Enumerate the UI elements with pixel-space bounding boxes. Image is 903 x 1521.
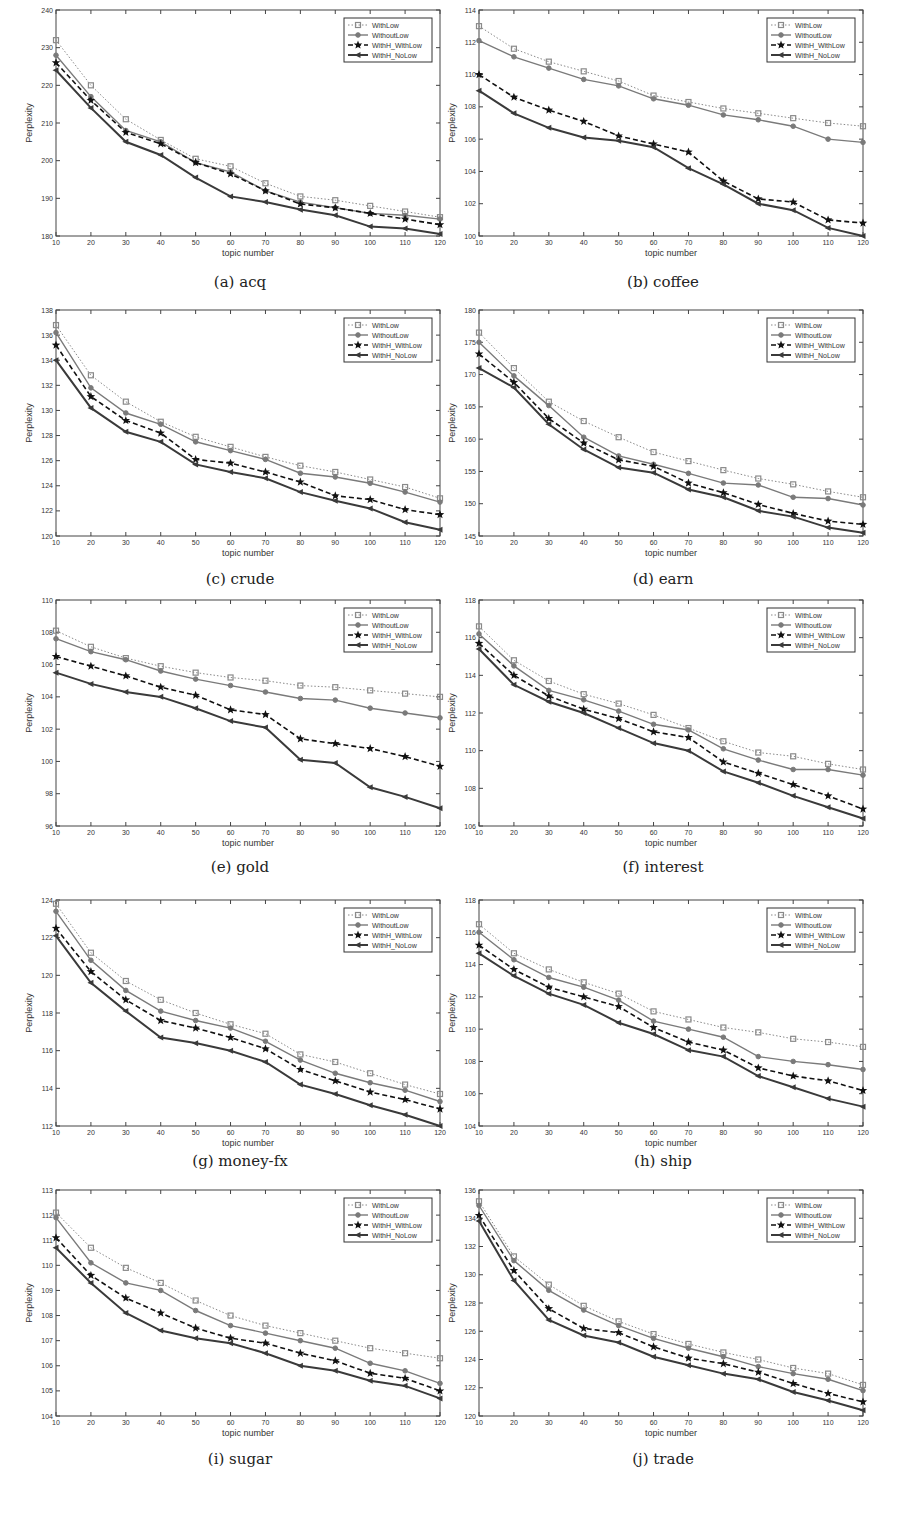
svg-text:30: 30 [545,1419,553,1426]
svg-text:60: 60 [227,1419,235,1426]
svg-text:100: 100 [787,539,799,546]
svg-text:110: 110 [42,1262,53,1269]
svg-text:WithH_NoLow: WithH_NoLow [372,942,418,950]
svg-text:70: 70 [262,829,270,836]
svg-text:WithH_WithLow: WithH_WithLow [795,42,846,50]
svg-text:107: 107 [41,1337,53,1344]
svg-text:145: 145 [464,533,476,540]
svg-text:WithoutLow: WithoutLow [372,922,410,929]
svg-text:WithLow: WithLow [795,612,823,619]
svg-text:Perplexity: Perplexity [447,1283,457,1323]
svg-text:Perplexity: Perplexity [447,693,457,733]
svg-text:10: 10 [52,829,60,836]
svg-text:126: 126 [464,1328,476,1335]
svg-text:124: 124 [464,1356,476,1363]
chart-panel-money-fx: 1020304050607080901001101201121141161181… [20,890,460,1180]
svg-text:110: 110 [823,829,834,836]
svg-text:WithH_WithLow: WithH_WithLow [372,632,423,640]
svg-text:100: 100 [364,829,376,836]
svg-text:108: 108 [464,1058,476,1065]
svg-text:116: 116 [465,929,476,936]
svg-text:WithoutLow: WithoutLow [795,32,833,39]
svg-text:165: 165 [464,403,476,410]
line-chart: 1020304050607080901001101201201221241261… [443,1180,883,1440]
line-chart: 1020304050607080901001101201201221241261… [20,300,460,560]
svg-text:WithH_NoLow: WithH_NoLow [795,52,841,60]
svg-text:112: 112 [42,1123,53,1130]
svg-text:108: 108 [464,785,476,792]
svg-text:100: 100 [464,233,476,240]
svg-text:WithH_WithLow: WithH_WithLow [372,342,423,350]
svg-text:105: 105 [41,1387,53,1394]
svg-text:102: 102 [464,200,476,207]
svg-text:topic number: topic number [645,838,697,848]
svg-text:20: 20 [87,1419,95,1426]
svg-text:114: 114 [465,7,476,14]
svg-text:180: 180 [41,233,53,240]
svg-text:40: 40 [157,239,165,246]
svg-text:80: 80 [296,829,304,836]
svg-text:104: 104 [464,1123,476,1130]
svg-text:108: 108 [41,1312,53,1319]
caption-sugar: (i) sugar [20,1450,460,1468]
caption-coffee: (b) coffee [443,273,883,291]
caption-trade: (j) trade [443,1450,883,1468]
svg-text:40: 40 [157,1129,165,1136]
svg-text:WithH_WithLow: WithH_WithLow [795,932,846,940]
svg-text:128: 128 [464,1300,476,1307]
svg-text:WithH_NoLow: WithH_NoLow [795,942,841,950]
svg-text:90: 90 [754,829,762,836]
svg-text:210: 210 [41,120,53,127]
svg-text:20: 20 [87,829,95,836]
svg-text:50: 50 [192,239,200,246]
svg-text:50: 50 [615,539,623,546]
svg-text:WithLow: WithLow [795,322,823,329]
svg-text:120: 120 [41,972,53,979]
svg-text:60: 60 [227,829,235,836]
svg-text:134: 134 [41,357,53,364]
svg-text:175: 175 [464,339,476,346]
svg-text:WithH_WithLow: WithH_WithLow [795,342,846,350]
svg-text:60: 60 [227,1129,235,1136]
svg-text:106: 106 [464,823,476,830]
svg-text:124: 124 [41,482,53,489]
svg-text:WithLow: WithLow [372,912,400,919]
svg-text:120: 120 [857,1419,869,1426]
svg-text:10: 10 [52,239,60,246]
svg-text:102: 102 [41,726,53,733]
svg-text:40: 40 [580,539,588,546]
svg-text:40: 40 [580,1129,588,1136]
svg-text:WithH_WithLow: WithH_WithLow [372,932,423,940]
svg-text:WithLow: WithLow [372,612,400,619]
svg-text:40: 40 [157,829,165,836]
caption-ship: (h) ship [443,1152,883,1170]
svg-text:109: 109 [41,1287,53,1294]
svg-text:WithH_WithLow: WithH_WithLow [795,632,846,640]
svg-text:136: 136 [41,332,53,339]
svg-text:20: 20 [510,239,518,246]
svg-text:138: 138 [41,307,53,314]
svg-text:topic number: topic number [222,248,274,258]
svg-text:30: 30 [545,539,553,546]
svg-text:WithH_NoLow: WithH_NoLow [795,352,841,360]
svg-text:WithH_NoLow: WithH_NoLow [795,642,841,650]
svg-text:40: 40 [580,829,588,836]
svg-text:10: 10 [475,239,483,246]
svg-text:114: 114 [42,1085,53,1092]
svg-text:70: 70 [262,239,270,246]
svg-text:136: 136 [464,1187,476,1194]
line-chart: 1020304050607080901001101201121141161181… [20,890,460,1150]
svg-text:WithH_NoLow: WithH_NoLow [372,642,418,650]
svg-text:128: 128 [41,432,53,439]
chart-panel-ship: 1020304050607080901001101201041061081101… [443,890,883,1180]
caption-earn: (d) earn [443,570,883,588]
svg-text:10: 10 [52,1419,60,1426]
svg-text:WithoutLow: WithoutLow [795,922,833,929]
svg-text:60: 60 [227,539,235,546]
svg-text:topic number: topic number [645,248,697,258]
line-chart: 1020304050607080901001101201061081101121… [443,590,883,850]
svg-text:WithoutLow: WithoutLow [795,1212,833,1219]
chart-panel-crude: 1020304050607080901001101201201221241261… [20,300,460,590]
caption-interest: (f) interest [443,858,883,876]
svg-text:topic number: topic number [645,1138,697,1148]
